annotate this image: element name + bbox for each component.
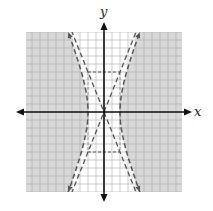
y-axis-label: y [100, 4, 107, 19]
x-axis-label: x [194, 104, 201, 119]
graph-canvas [0, 0, 213, 211]
